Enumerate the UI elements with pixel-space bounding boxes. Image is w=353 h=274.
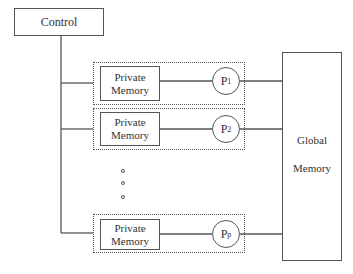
processor-subscript: 2 — [227, 125, 231, 134]
processor-subscript: 1 — [227, 77, 231, 86]
ellipsis-dot — [121, 195, 125, 199]
control-box: Control — [14, 8, 104, 36]
ellipsis-dot — [121, 181, 125, 185]
processor-p2: P2 — [212, 115, 240, 143]
private-memory-label: Memory — [111, 129, 149, 142]
private-memory-1: Private Memory — [100, 66, 160, 101]
private-memory-p: Private Memory — [100, 219, 160, 250]
global-memory-box: Global Memory — [282, 52, 342, 261]
processor-label: P — [221, 74, 228, 89]
global-memory-label: Memory — [293, 161, 331, 175]
control-label: Control — [41, 15, 78, 30]
private-memory-label: Private — [114, 116, 145, 129]
processor-label: P — [221, 227, 228, 242]
global-memory-label: Global — [297, 133, 327, 147]
ellipsis-dot — [121, 169, 125, 173]
private-memory-label: Private — [114, 71, 145, 84]
processor-pp: Pp — [212, 220, 240, 248]
processor-label: P — [221, 122, 228, 137]
private-memory-2: Private Memory — [100, 112, 160, 146]
processor-subscript: p — [227, 230, 231, 239]
private-memory-label: Memory — [111, 235, 149, 248]
processor-p1: P1 — [212, 67, 240, 95]
private-memory-label: Memory — [111, 84, 149, 97]
private-memory-label: Private — [114, 222, 145, 235]
